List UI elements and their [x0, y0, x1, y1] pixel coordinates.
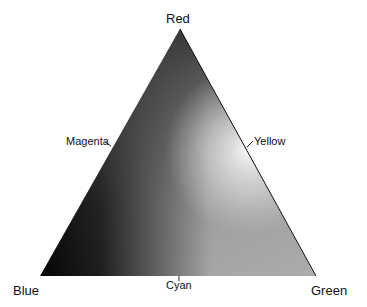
vertex-label-red: Red [166, 12, 190, 26]
vertex-label-blue: Blue [13, 284, 39, 298]
triangle-yellow-highlight [0, 0, 367, 307]
yellow-tick [247, 141, 253, 147]
vertex-label-green: Green [311, 284, 347, 298]
color-triangle-diagram [0, 0, 367, 307]
edge-label-yellow: Yellow [254, 135, 285, 147]
edge-label-cyan: Cyan [166, 279, 192, 291]
edge-label-magenta: Magenta [66, 135, 109, 147]
